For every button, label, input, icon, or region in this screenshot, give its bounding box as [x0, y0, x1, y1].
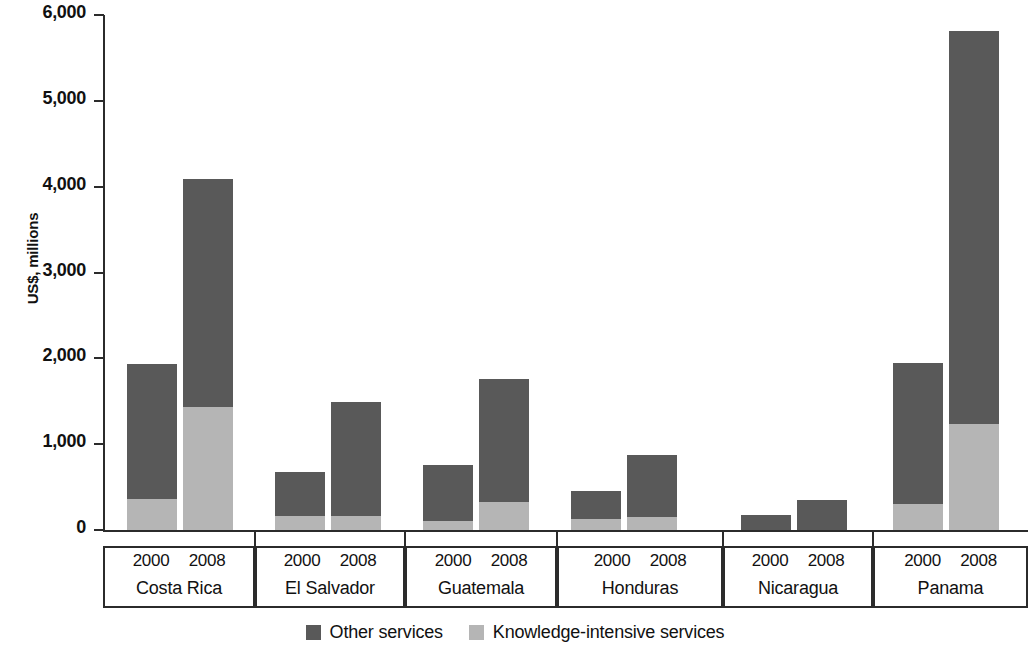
bar-segment-other-services — [797, 500, 847, 530]
y-axis-tick-label: 3,000 — [2, 260, 86, 281]
x-axis-country-label: El Salvador — [255, 578, 405, 604]
x-axis-country-label: Nicaragua — [723, 578, 873, 604]
x-axis-year-row: 20002008 — [103, 548, 255, 574]
x-axis-year-label: 2000 — [425, 551, 481, 571]
x-axis-year-label: 2000 — [584, 551, 640, 571]
x-axis-country-label: Honduras — [557, 578, 723, 604]
y-axis-tick-label: 4,000 — [2, 174, 86, 195]
bar-panama-2008 — [949, 31, 999, 530]
bar-el-salvador-2000 — [275, 472, 325, 530]
x-axis-year-row: 20002008 — [255, 548, 405, 574]
bar-segment-knowledge-intensive-services — [183, 407, 233, 530]
plot-area — [103, 15, 1030, 530]
bar-segment-knowledge-intensive-services — [127, 499, 177, 530]
y-axis-tick-label: 6,000 — [2, 2, 86, 23]
x-axis-year-label: 2008 — [179, 551, 235, 571]
x-axis-year-label: 2008 — [481, 551, 537, 571]
bar-honduras-2000 — [571, 491, 621, 530]
bar-segment-other-services — [183, 179, 233, 407]
legend-label: Knowledge-intensive services — [493, 622, 725, 643]
bar-nicaragua-2008 — [797, 500, 847, 530]
y-axis-tick-label: 0 — [2, 517, 86, 538]
bar-segment-other-services — [127, 364, 177, 499]
legend-item[interactable]: Knowledge-intensive services — [469, 622, 725, 643]
bar-segment-other-services — [423, 465, 473, 521]
bar-nicaragua-2000 — [741, 515, 791, 530]
x-axis-line — [103, 530, 1028, 532]
bar-segment-knowledge-intensive-services — [627, 517, 677, 530]
bar-segment-other-services — [275, 472, 325, 516]
x-axis-country-label: Guatemala — [405, 578, 557, 604]
x-axis-year-label: 2008 — [798, 551, 854, 571]
bar-guatemala-2008 — [479, 379, 529, 530]
bar-segment-other-services — [479, 379, 529, 502]
x-axis-group-separator — [722, 531, 724, 546]
x-axis-year-row: 20002008 — [557, 548, 723, 574]
bar-costa-rica-2008 — [183, 179, 233, 530]
bar-segment-knowledge-intensive-services — [423, 521, 473, 530]
bar-segment-knowledge-intensive-services — [331, 516, 381, 530]
x-axis-country-label: Costa Rica — [103, 578, 255, 604]
bar-el-salvador-2008 — [331, 402, 381, 530]
bar-segment-knowledge-intensive-services — [275, 516, 325, 530]
chart-legend: Other servicesKnowledge-intensive servic… — [0, 622, 1030, 643]
bar-segment-knowledge-intensive-services — [949, 424, 999, 530]
legend-item[interactable]: Other services — [306, 622, 443, 643]
bar-segment-other-services — [741, 515, 791, 530]
x-axis-group-separator — [556, 531, 558, 546]
x-axis-year-row: 20002008 — [405, 548, 557, 574]
x-axis-group-separator — [404, 531, 406, 546]
x-axis-year-label: 2008 — [330, 551, 386, 571]
x-axis-year-label: 2000 — [895, 551, 951, 571]
x-axis-year-label: 2008 — [951, 551, 1007, 571]
x-axis-year-row: 20002008 — [873, 548, 1028, 574]
bar-segment-other-services — [331, 402, 381, 516]
bar-segment-other-services — [949, 31, 999, 424]
x-axis-group-separator — [872, 531, 874, 546]
bar-segment-knowledge-intensive-services — [479, 502, 529, 530]
x-axis-country-label: Panama — [873, 578, 1028, 604]
bar-panama-2000 — [893, 363, 943, 530]
legend-swatch-icon — [469, 625, 484, 640]
bar-segment-knowledge-intensive-services — [571, 519, 621, 530]
x-axis-year-label: 2008 — [640, 551, 696, 571]
stacked-bar-chart: US$, millions 6,0005,0004,0003,0002,0001… — [0, 0, 1030, 653]
bar-guatemala-2000 — [423, 465, 473, 530]
bar-honduras-2008 — [627, 455, 677, 530]
bar-segment-other-services — [893, 363, 943, 504]
bar-segment-knowledge-intensive-services — [893, 504, 943, 530]
y-axis-tick-label: 1,000 — [2, 431, 86, 452]
legend-swatch-icon — [306, 625, 321, 640]
legend-label: Other services — [330, 622, 443, 643]
y-axis-tick-label: 2,000 — [2, 345, 86, 366]
bar-segment-other-services — [627, 455, 677, 517]
bar-segment-other-services — [571, 491, 621, 519]
x-axis-year-label: 2000 — [742, 551, 798, 571]
x-axis-group-separator — [254, 531, 256, 546]
y-axis-tick-label: 5,000 — [2, 88, 86, 109]
y-axis-title: US$, millions — [24, 179, 41, 339]
x-axis-year-label: 2000 — [274, 551, 330, 571]
x-axis-year-row: 20002008 — [723, 548, 873, 574]
x-axis-year-label: 2000 — [123, 551, 179, 571]
bar-costa-rica-2000 — [127, 364, 177, 530]
